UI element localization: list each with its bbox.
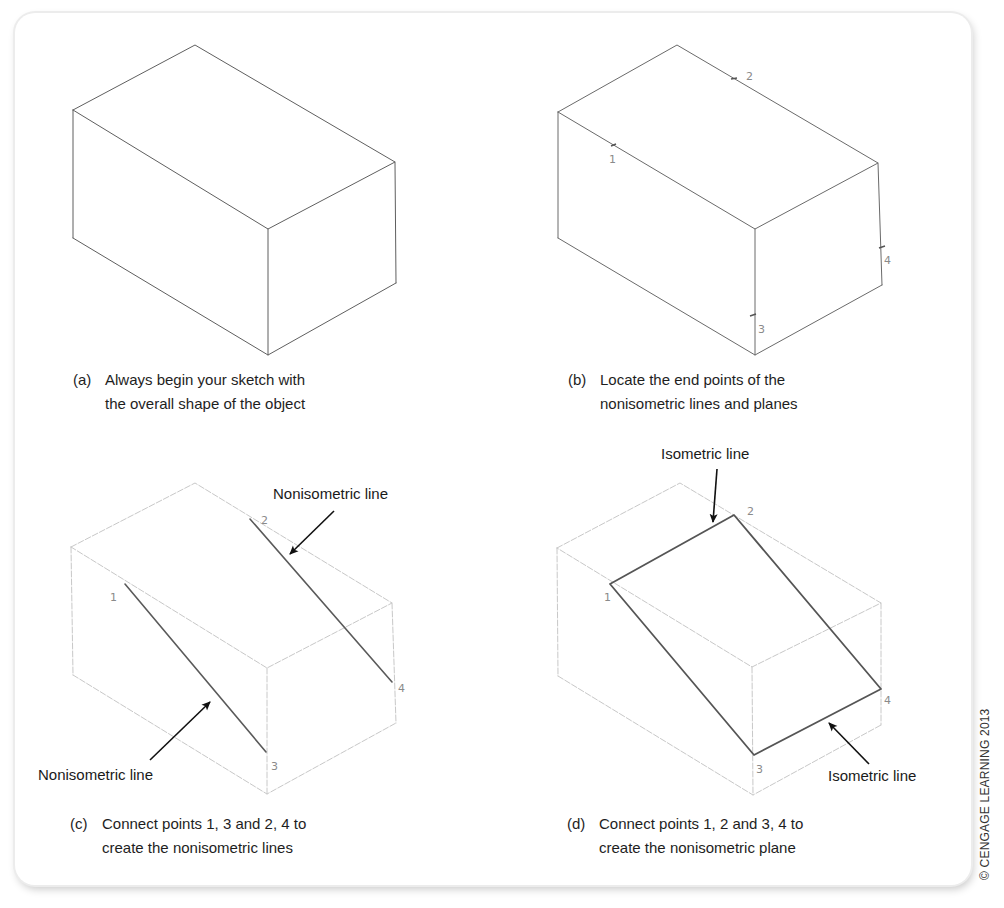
- caption-line-1: Always begin your sketch with: [105, 371, 305, 388]
- point-label-1: 1: [609, 153, 616, 166]
- point-label-4: 4: [398, 682, 405, 695]
- panel-b-endpoint-ticks: [611, 78, 885, 316]
- panel-b-box-sketch: [558, 45, 882, 355]
- panel-c-nonisometric-lines: [125, 519, 392, 752]
- caption-line-2: create the nonisometric lines: [70, 836, 306, 860]
- caption-line-1: Locate the end points of the: [600, 371, 785, 388]
- point-label-3: 3: [758, 323, 765, 336]
- arrow-icon: [713, 469, 717, 522]
- panel-c-construction-box: [71, 483, 396, 794]
- panel-a-box-sketch: [73, 45, 396, 355]
- caption-panel-c: (c)Connect points 1, 3 and 2, 4 to creat…: [70, 812, 306, 860]
- point-label-4: 4: [884, 694, 891, 707]
- caption-panel-d: (d)Connect points 1, 2 and 3, 4 to creat…: [567, 812, 803, 860]
- point-label-3: 3: [756, 763, 763, 776]
- panel-b-point-labels: 1 2 3 4: [609, 70, 891, 336]
- point-label-2: 2: [261, 514, 268, 527]
- callout-nonisometric-line-upper: Nonisometric line: [273, 485, 388, 502]
- caption-line-2: create the nonisometric plane: [567, 836, 803, 860]
- caption-tag: (d): [567, 812, 599, 836]
- callout-nonisometric-line-lower: Nonisometric line: [38, 766, 153, 783]
- caption-tag: (c): [70, 812, 102, 836]
- panel-d-construction-box: [557, 483, 881, 795]
- caption-line-1: Connect points 1, 2 and 3, 4 to: [599, 815, 803, 832]
- callout-isometric-line-upper: Isometric line: [661, 445, 749, 462]
- arrow-icon: [150, 702, 210, 760]
- nonisometric-line-2-4: [250, 519, 392, 682]
- panel-d-point-labels: 1 2 3 4: [604, 505, 891, 776]
- caption-tag: (a): [73, 368, 105, 392]
- caption-line-2: nonisometric lines and planes: [568, 392, 798, 416]
- callout-isometric-line-lower: Isometric line: [828, 767, 916, 784]
- point-label-4: 4: [884, 254, 891, 267]
- copyright-notice: © CENGAGE LEARNING 2013: [978, 709, 992, 881]
- panel-d-nonisometric-plane: [610, 515, 881, 755]
- panel-d-arrows: [713, 469, 869, 764]
- caption-panel-b: (b)Locate the end points of the nonisome…: [568, 368, 798, 416]
- point-label-3: 3: [271, 760, 278, 773]
- arrow-icon: [290, 511, 334, 554]
- point-label-1: 1: [110, 591, 117, 604]
- point-label-2: 2: [746, 70, 753, 83]
- arrow-icon: [829, 723, 869, 764]
- point-label-2: 2: [747, 505, 754, 518]
- caption-line-1: Connect points 1, 3 and 2, 4 to: [102, 815, 306, 832]
- caption-tag: (b): [568, 368, 600, 392]
- caption-panel-a: (a)Always begin your sketch with the ove…: [73, 368, 305, 416]
- panel-c-point-labels: 1 2 3 4: [110, 514, 405, 773]
- point-label-1: 1: [604, 591, 611, 604]
- nonisometric-line-1-3: [125, 584, 266, 752]
- caption-line-2: the overall shape of the object: [73, 392, 305, 416]
